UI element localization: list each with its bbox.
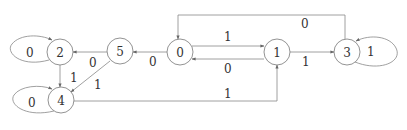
edge-label-5-4: 1 (94, 78, 102, 92)
node-1: 1 (264, 39, 290, 65)
edge-label-2-4: 1 (70, 71, 78, 85)
edge-label-5-2: 0 (89, 56, 97, 70)
node-5: 5 (107, 38, 133, 64)
edge-4-1 (74, 65, 277, 101)
edge-label-3-3: 1 (367, 45, 375, 59)
edge-label-1-3: 1 (302, 55, 310, 69)
node-label-5: 5 (116, 45, 124, 59)
node-label-1: 1 (273, 46, 281, 60)
edge-label-0-1: 1 (224, 30, 232, 44)
edge-label-2-2: 0 (26, 46, 34, 60)
edge-label-1-0: 0 (224, 62, 232, 76)
edge-3-3 (355, 37, 397, 66)
edge-label-4-1: 1 (224, 87, 232, 101)
node-label-2: 2 (56, 46, 64, 60)
state-diagram: 0 0 1 0 1 0 1 0 1 1 0 1 2 4 5 0 (0, 0, 407, 130)
edge-3-0 (178, 15, 345, 39)
node-label-3: 3 (343, 46, 351, 60)
node-0: 0 (167, 39, 193, 65)
node-4: 4 (48, 87, 74, 113)
edge-label-4-4: 0 (28, 96, 36, 110)
node-label-4: 4 (57, 94, 65, 108)
edge-label-3-0: 0 (301, 17, 309, 31)
node-2: 2 (47, 39, 73, 65)
node-3: 3 (334, 39, 360, 65)
node-label-0: 0 (176, 46, 184, 60)
edge-label-0-5: 0 (149, 55, 157, 69)
